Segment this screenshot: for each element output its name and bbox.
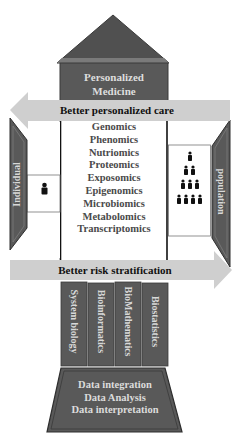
omics-item: Nutriomics [60,147,168,160]
person-icon [42,183,48,195]
omics-item: Metabolomics [60,211,168,224]
better-risk-stratification-label: Better risk stratification [40,263,190,277]
pillar-label-bioinformatics: Bioinformatics [96,280,107,364]
pillar-label-system-biology: System biology [69,280,80,364]
omics-item: Transcriptomics [60,223,168,236]
base-line: Data Analysis [50,392,180,405]
personalized-medicine-title: Personalized Medicine [60,70,168,98]
title-line-2: Medicine [60,84,168,98]
omics-list: Genomics Phenomics Nutriomics Proteomics… [60,121,168,236]
omics-item: Proteomics [60,159,168,172]
pillar-label-biomathematics: BioMathematics [123,280,134,364]
roof-band [57,58,169,63]
omics-item: Epigenomics [60,185,168,198]
title-line-1: Personalized [60,70,168,84]
individual-label: Individual [11,145,22,225]
roof [57,15,169,63]
omics-item: Phenomics [60,134,168,147]
omics-item: Microbiomics [60,198,168,211]
pillar-label-biostatistics: Biostatistics [150,280,161,364]
omics-item: Genomics [60,121,168,134]
population-label: population [216,152,227,232]
omics-item: Exposomics [60,172,168,185]
base-line: Data integration [50,379,180,392]
base-line: Data interpretation [50,404,180,417]
better-personalized-care-label: Better personalized care [60,103,168,117]
data-base-text: Data integration Data Analysis Data inte… [50,379,180,417]
